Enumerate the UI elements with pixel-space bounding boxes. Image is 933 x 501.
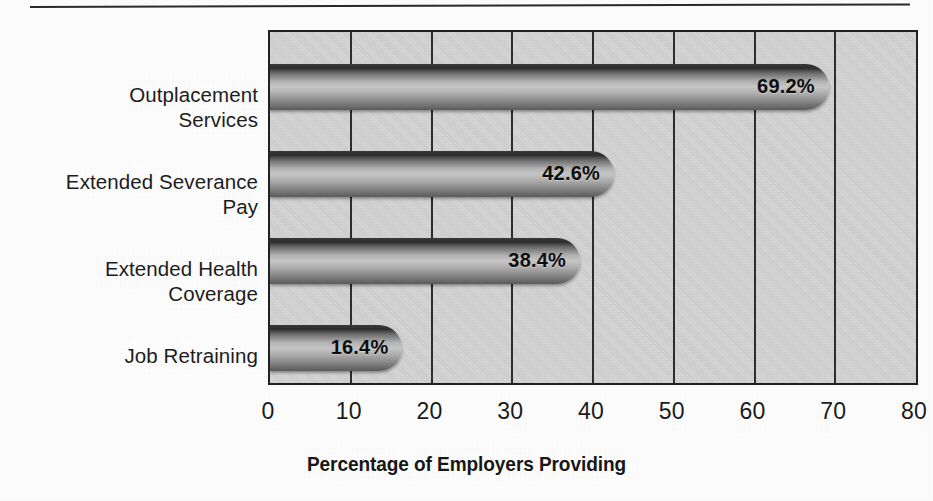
bar-value-label: 69.2%	[757, 75, 815, 98]
bar-extended-severance-pay[interactable]: 42.6%	[270, 151, 614, 197]
xtick-80: 80	[901, 398, 927, 425]
plot-area: 69.2% 42.6% 38.4% 16.4%	[268, 30, 918, 385]
xtick-20: 20	[416, 398, 442, 425]
xtick-40: 40	[578, 398, 604, 425]
bar-extended-health-coverage[interactable]: 38.4%	[270, 238, 580, 284]
category-label-outplacement-services: Outplacement Services	[0, 82, 258, 132]
xtick-60: 60	[739, 398, 765, 425]
category-label-extended-severance-pay: Extended Severance Pay	[0, 169, 258, 219]
xtick-50: 50	[659, 398, 685, 425]
xtick-0: 0	[261, 398, 274, 425]
bar-value-label: 38.4%	[508, 249, 566, 272]
bar-job-retraining[interactable]: 16.4%	[270, 325, 402, 371]
xtick-70: 70	[820, 398, 846, 425]
bar-chart-figure: Outplacement Services Extended Severance…	[0, 0, 933, 501]
x-axis-title: Percentage of Employers Providing	[33, 452, 901, 476]
category-axis-labels: Outplacement Services Extended Severance…	[0, 30, 258, 385]
category-label-job-retraining: Job Retraining	[0, 343, 258, 368]
gridline-70	[834, 32, 836, 383]
header-rule	[30, 3, 910, 8]
bar-value-label: 16.4%	[331, 336, 389, 359]
x-axis-tick-labels: 0 10 20 30 40 50 60 70 80	[268, 398, 918, 430]
xtick-10: 10	[336, 398, 362, 425]
category-label-extended-health-coverage: Extended Health Coverage	[0, 256, 258, 306]
xtick-30: 30	[497, 398, 523, 425]
bar-value-label: 42.6%	[542, 162, 600, 185]
bar-outplacement-services[interactable]: 69.2%	[270, 64, 829, 110]
